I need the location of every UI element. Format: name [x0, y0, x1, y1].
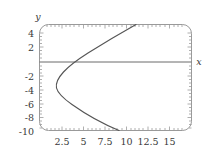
xtick-label-1: 5 — [80, 136, 86, 147]
plot-canvas: 2.5 5 7.5 10 12.5 15 4 2 -2 -4 -6 -8 -10… — [0, 0, 211, 166]
y-axis-label: y — [34, 11, 41, 22]
ytick-label-4: -6 — [25, 99, 34, 110]
parabola-curve — [56, 25, 136, 131]
ytick-label-1: 2 — [28, 42, 34, 53]
ytick-label-0: 4 — [28, 28, 34, 39]
ytick-label-5: -8 — [25, 112, 34, 123]
xtick-label-3: 10 — [120, 136, 132, 147]
x-axis-label: x — [196, 56, 202, 67]
plot-frame — [40, 25, 192, 131]
xtick-label-0: 2.5 — [54, 136, 69, 147]
left-edge-ticks — [40, 33, 44, 128]
xtick-label-4: 12.5 — [137, 136, 158, 147]
ytick-label-6: -10 — [19, 126, 34, 137]
ytick-label-3: -4 — [25, 85, 34, 96]
right-edge-ticks — [188, 33, 192, 128]
xtick-label-2: 7.5 — [97, 136, 112, 147]
top-edge-ticks — [47, 25, 182, 29]
xtick-label-5: 15 — [163, 136, 175, 147]
chart-figure: 2.5 5 7.5 10 12.5 15 4 2 -2 -4 -6 -8 -10… — [0, 0, 211, 166]
ytick-label-2: -2 — [25, 71, 34, 82]
